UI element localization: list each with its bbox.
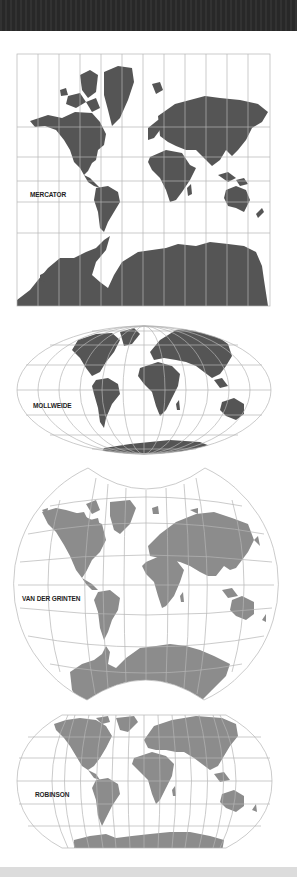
mollweide-graticule xyxy=(17,326,271,454)
robinson-map-graphic xyxy=(0,710,297,855)
robinson-label: ROBINSON xyxy=(35,791,69,798)
van-der-grinten-map-graphic xyxy=(0,462,297,707)
top-dark-band xyxy=(0,0,297,31)
mercator-map: MERCATOR xyxy=(0,50,297,310)
van-der-grinten-label: VAN DER GRINTEN xyxy=(22,595,80,602)
mollweide-map-graphic xyxy=(0,320,297,460)
bottom-gray-band xyxy=(0,867,297,877)
mollweide-map: MOLLWEIDE xyxy=(0,320,297,460)
van-der-grinten-graticule xyxy=(14,468,279,700)
van-der-grinten-map: VAN DER GRINTEN xyxy=(0,462,297,707)
mercator-map-graphic xyxy=(0,50,297,310)
mollweide-label: MOLLWEIDE xyxy=(33,402,71,409)
robinson-map: ROBINSON xyxy=(0,710,297,855)
mercator-label: MERCATOR xyxy=(30,191,66,198)
